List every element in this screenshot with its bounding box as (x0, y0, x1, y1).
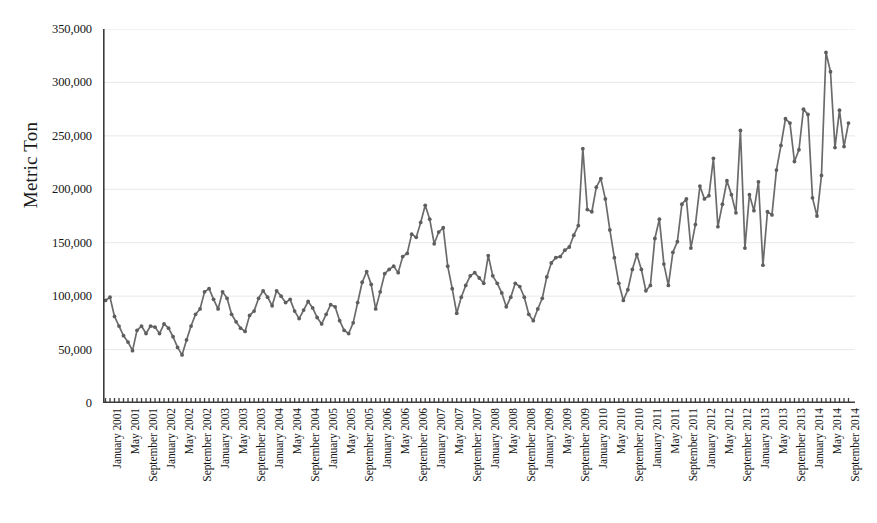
chart-container: Metric Ton 050,000100,000150,000200,0002… (0, 0, 877, 523)
data-point (824, 51, 828, 55)
x-axis-tick-label: September 2008 (525, 408, 537, 482)
x-axis-tick-label: September 2014 (849, 408, 861, 482)
data-point (775, 168, 779, 172)
data-point (675, 240, 679, 244)
data-point (662, 262, 666, 266)
data-point (464, 284, 468, 288)
data-point (216, 307, 220, 311)
data-point (252, 309, 256, 313)
y-axis-tick-label: 250,000 (52, 128, 92, 143)
data-point (784, 117, 788, 121)
x-axis-tick-label: January 2012 (705, 408, 717, 468)
data-series-markers (104, 51, 851, 357)
y-axis-tick-label: 350,000 (52, 22, 92, 37)
data-point (401, 255, 405, 259)
x-axis-tick-label: May 2013 (777, 408, 789, 454)
x-axis-tick-label: September 2013 (795, 408, 807, 482)
data-point (608, 228, 612, 232)
data-point (167, 326, 171, 330)
data-point (459, 295, 463, 299)
data-point (378, 290, 382, 294)
data-point (315, 316, 319, 320)
data-point (703, 197, 707, 201)
data-point (144, 332, 148, 336)
data-point (734, 211, 738, 215)
x-axis-tick-label: September 2007 (471, 408, 483, 482)
x-axis-tick-label: September 2002 (201, 408, 213, 482)
x-axis-tick-label: January 2001 (111, 408, 123, 468)
data-point (716, 225, 720, 229)
data-point (644, 289, 648, 293)
data-point (730, 193, 734, 197)
data-point (230, 312, 234, 316)
x-axis-tick-label: May 2003 (237, 408, 249, 454)
x-axis-tick-label: January 2004 (273, 408, 285, 468)
data-point (576, 224, 580, 228)
data-point (122, 334, 126, 338)
data-point (356, 301, 360, 305)
data-point (158, 332, 162, 336)
data-point (707, 194, 711, 198)
data-point (779, 144, 783, 148)
data-point (180, 353, 184, 357)
data-point (428, 217, 432, 221)
data-point (797, 148, 801, 152)
x-axis-tick-label: September 2001 (147, 408, 159, 482)
data-point (495, 281, 499, 285)
data-point (333, 305, 337, 309)
data-point (261, 289, 265, 293)
data-point (630, 268, 634, 272)
data-point (473, 271, 477, 275)
data-point (113, 315, 117, 319)
data-point (387, 268, 391, 272)
data-point (302, 308, 306, 312)
data-point (752, 209, 756, 213)
data-point (612, 256, 616, 260)
data-point (234, 320, 238, 324)
data-point (243, 330, 247, 334)
x-axis-tick-label: May 2008 (507, 408, 519, 454)
x-axis-tick-label: January 2003 (219, 408, 231, 468)
data-point (126, 340, 130, 344)
data-point (558, 255, 562, 259)
data-point (257, 296, 261, 300)
data-point (743, 246, 747, 250)
data-point (414, 235, 418, 239)
x-axis-tick-label: January 2013 (759, 408, 771, 468)
x-axis-tick-label: May 2007 (453, 408, 465, 454)
data-point (324, 312, 328, 316)
data-point (599, 177, 603, 181)
data-point (207, 287, 211, 291)
data-point (153, 325, 157, 329)
data-point (639, 268, 643, 272)
data-point (185, 338, 189, 342)
data-point (770, 213, 774, 217)
data-point (815, 214, 819, 218)
x-axis-tick-label: May 2011 (669, 408, 681, 454)
data-point (838, 108, 842, 112)
data-point (549, 261, 553, 265)
x-axis-tick-label: September 2011 (687, 408, 699, 481)
data-point (239, 326, 243, 330)
x-axis-tick-label: May 2006 (399, 408, 411, 454)
data-point (423, 203, 427, 207)
data-point (419, 221, 423, 225)
data-point (297, 317, 301, 321)
data-point (585, 208, 589, 212)
x-axis-tick-label: September 2005 (363, 408, 375, 482)
data-point (432, 242, 436, 246)
data-point (671, 250, 675, 254)
data-point (739, 129, 743, 133)
x-axis-tick-label: January 2008 (489, 408, 501, 468)
data-point (766, 210, 770, 214)
x-axis-tick-label: September 2009 (579, 408, 591, 482)
data-point (527, 312, 531, 316)
data-point (842, 145, 846, 149)
x-axis-tick-label: January 2009 (543, 408, 555, 468)
data-point (666, 284, 670, 288)
data-point (194, 312, 198, 316)
data-point (149, 324, 153, 328)
data-point (410, 232, 414, 236)
x-axis-tick-label: September 2012 (741, 408, 753, 482)
data-point (635, 253, 639, 257)
